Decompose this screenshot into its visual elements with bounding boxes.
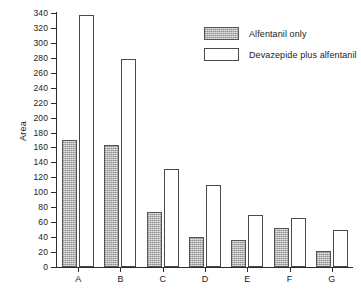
- y-tick-mark: [51, 103, 56, 104]
- bar-d-series-2: [206, 185, 221, 267]
- x-tick-label-e: E: [244, 274, 250, 284]
- x-tick-mark: [163, 268, 164, 272]
- y-tick-mark: [51, 133, 56, 134]
- y-tick-mark: [51, 13, 56, 14]
- y-tick-label: 20: [38, 248, 48, 257]
- y-tick-label: 260: [34, 68, 48, 77]
- y-tick-mark: [51, 73, 56, 74]
- y-tick-mark: [51, 118, 56, 119]
- legend-label-series-2: Devazepide plus alfentanil: [249, 50, 357, 60]
- bar-f-series-1: [274, 228, 289, 267]
- x-tick-mark: [290, 268, 291, 272]
- y-tick-label: 200: [34, 113, 48, 122]
- y-tick-mark: [51, 267, 56, 268]
- y-tick-mark: [51, 147, 56, 148]
- y-tick-label: 160: [34, 143, 48, 152]
- bar-a-series-1: [62, 140, 77, 267]
- y-tick-label: 120: [34, 173, 48, 182]
- legend-swatch-white-icon: [204, 48, 239, 61]
- y-tick-label: 240: [34, 83, 48, 92]
- y-tick-mark: [51, 88, 56, 89]
- bar-chart-figure: Area 02040608010012014016018020022024026…: [0, 0, 361, 296]
- bar-d-series-1: [189, 237, 204, 267]
- y-axis-title: Area: [18, 121, 28, 141]
- y-tick-mark: [51, 162, 56, 163]
- legend-swatch-gray-icon: [204, 27, 239, 40]
- y-tick-label: 100: [34, 188, 48, 197]
- y-tick-label: 180: [34, 128, 48, 137]
- bar-g-series-1: [316, 251, 331, 267]
- y-tick-label: 300: [34, 38, 48, 47]
- y-tick-label: 40: [38, 233, 48, 242]
- x-tick-mark: [78, 268, 79, 272]
- y-tick-mark: [51, 28, 56, 29]
- x-tick-label-c: C: [159, 274, 166, 284]
- y-tick-label: 0: [43, 263, 48, 272]
- bar-b-series-2: [121, 59, 136, 267]
- y-tick-label: 280: [34, 53, 48, 62]
- x-tick-label-a: A: [75, 274, 81, 284]
- x-tick-label-g: G: [328, 274, 335, 284]
- y-tick-mark: [51, 192, 56, 193]
- x-tick-label-f: F: [287, 274, 293, 284]
- y-tick-mark: [51, 177, 56, 178]
- y-tick-mark: [51, 58, 56, 59]
- x-tick-mark: [205, 268, 206, 272]
- bar-e-series-1: [231, 240, 246, 267]
- bar-c-series-1: [147, 212, 162, 267]
- x-tick-label-b: B: [117, 274, 123, 284]
- chart-legend: Alfentanil only Devazepide plus alfentan…: [204, 25, 357, 67]
- x-tick-mark: [332, 268, 333, 272]
- legend-item-series-1: Alfentanil only: [204, 25, 357, 42]
- bar-b-series-1: [104, 145, 119, 267]
- legend-item-series-2: Devazepide plus alfentanil: [204, 46, 357, 63]
- y-tick-label: 140: [34, 158, 48, 167]
- y-tick-label: 60: [38, 218, 48, 227]
- y-tick-label: 320: [34, 23, 48, 32]
- x-tick-mark: [247, 268, 248, 272]
- bar-g-series-2: [333, 230, 348, 267]
- y-tick-label: 80: [38, 203, 48, 212]
- x-tick-label-d: D: [202, 274, 209, 284]
- bar-e-series-2: [248, 215, 263, 267]
- y-tick-label: 340: [34, 9, 48, 18]
- legend-label-series-1: Alfentanil only: [249, 29, 307, 39]
- bar-f-series-2: [291, 218, 306, 267]
- y-tick-mark: [51, 237, 56, 238]
- y-tick-mark: [51, 252, 56, 253]
- y-tick-mark: [51, 222, 56, 223]
- bar-c-series-2: [164, 169, 179, 267]
- x-tick-mark: [120, 268, 121, 272]
- y-tick-label: 220: [34, 98, 48, 107]
- bar-a-series-2: [79, 15, 94, 268]
- y-tick-mark: [51, 43, 56, 44]
- y-tick-mark: [51, 207, 56, 208]
